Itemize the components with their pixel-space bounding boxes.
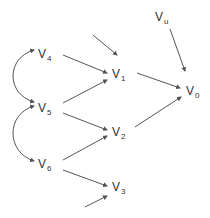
node-vu: Vu [155, 11, 168, 23]
node-subscript: 2 [121, 132, 125, 141]
node-label: V [112, 125, 120, 139]
node-label: V [38, 157, 46, 171]
node-v0: V0 [186, 85, 199, 97]
node-label: V [155, 10, 163, 24]
node-subscript: 0 [195, 91, 199, 100]
edge-v5-to-v1 [63, 80, 107, 103]
node-subscript: 6 [47, 164, 51, 173]
edge-v4-to-v1 [63, 55, 107, 73]
edge-v2-to-v0 [135, 97, 181, 127]
edge-unlabeled-top-to-v1 [93, 35, 117, 55]
node-subscript: 3 [121, 187, 125, 196]
edge-vu-to-v0 [170, 29, 185, 71]
edge-v6-to-v3 [63, 170, 107, 186]
node-v6: V6 [38, 158, 51, 170]
node-subscript: u [164, 17, 168, 26]
edge-v1-to-v0 [137, 73, 180, 88]
node-label: V [38, 47, 46, 61]
node-subscript: 4 [47, 54, 51, 63]
node-v5: V5 [38, 102, 51, 114]
edge-v5-to-v2 [63, 113, 107, 130]
node-v2: V2 [112, 126, 125, 138]
causal-graph-canvas [0, 0, 210, 218]
bidirected-arcs-layer [13, 50, 34, 161]
edge-unlabeled-bottom-to-v3 [85, 196, 107, 207]
node-v4: V4 [38, 48, 51, 60]
node-label: V [38, 101, 46, 115]
bidirected-arc-v4-v5 [13, 50, 34, 102]
bidirected-arc-v5-v6 [13, 106, 34, 161]
node-subscript: 1 [121, 74, 125, 83]
node-v3: V3 [112, 181, 125, 193]
node-label: V [112, 67, 120, 81]
node-v1: V1 [112, 68, 125, 80]
node-label: V [186, 84, 194, 98]
edge-v6-to-v2 [63, 136, 107, 160]
node-subscript: 5 [47, 108, 51, 117]
node-label: V [112, 180, 120, 194]
